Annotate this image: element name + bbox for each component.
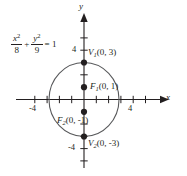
y-denominator: 9 (33, 45, 42, 55)
x-tick-label-4: 4 (128, 104, 132, 113)
f1-coords: (0, 1) (99, 81, 119, 91)
ellipse-equation: x2 8 + y2 9 = 1 (10, 33, 57, 55)
equals-one: = 1 (45, 39, 57, 49)
x-tick-label-minus-4: -4 (29, 104, 36, 113)
y-exponent: 2 (37, 32, 40, 39)
label-v2: V2(0, -3) (88, 139, 119, 149)
label-f2: F2(0, -1) (57, 116, 88, 126)
f2-coords: (0, -1) (66, 115, 89, 125)
label-f1: F1(0, 1) (90, 82, 118, 92)
y-numerator: y2 (31, 33, 42, 44)
plus-sign: + (24, 39, 29, 49)
x-term-fraction: x2 8 (11, 33, 22, 55)
point-f2 (81, 109, 87, 115)
x-exponent: 2 (17, 32, 20, 39)
point-v1 (81, 59, 87, 65)
y-axis (80, 13, 87, 168)
y-term-fraction: y2 9 (31, 33, 42, 55)
y-tick-label-4: 4 (72, 45, 76, 54)
v2-coords: (0, -3) (97, 138, 120, 148)
v1-coords: (0, 3) (97, 47, 117, 57)
point-f1 (81, 84, 87, 90)
y-axis-label: y (79, 2, 83, 11)
point-v2 (81, 133, 87, 139)
x-axis-label: x (166, 93, 170, 102)
x-denominator: 8 (12, 45, 21, 55)
x-axis (16, 96, 169, 103)
y-tick-label-minus-4: -4 (68, 143, 75, 152)
x-numerator: x2 (11, 33, 22, 44)
label-v1: V1(0, 3) (88, 48, 116, 58)
